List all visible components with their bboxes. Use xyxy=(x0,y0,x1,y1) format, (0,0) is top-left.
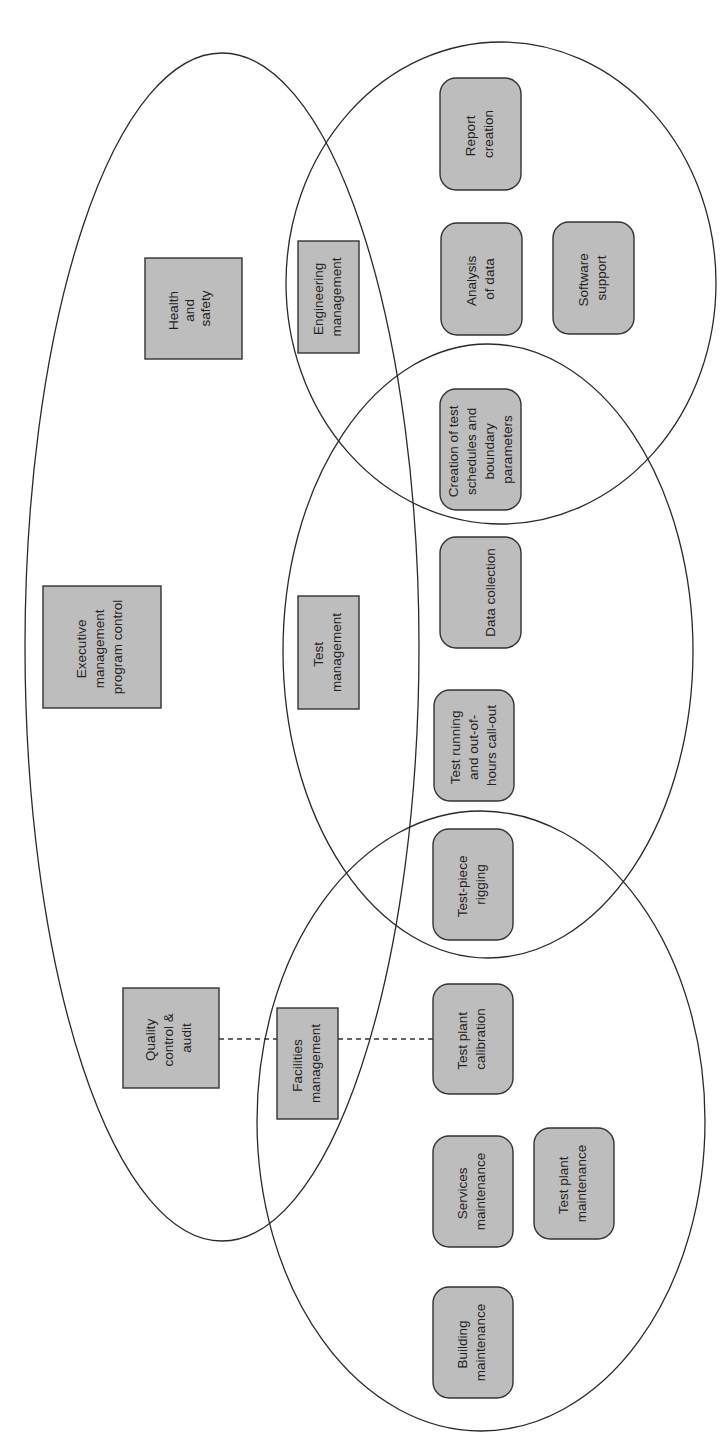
health-safety-box: Health and safety xyxy=(145,258,242,359)
services-maintenance-box: Services maintenance xyxy=(433,1136,513,1247)
report-creation-box: Report creation xyxy=(440,78,521,190)
org-diagram: Health and safety Executive management p… xyxy=(0,0,724,1445)
engineering-management-box: Engineering management xyxy=(298,241,359,353)
test-running-label: Test running and out-of- hours call-out xyxy=(448,705,499,786)
facilities-management-box: Facilities management xyxy=(277,1008,338,1119)
test-running-box: Test running and out-of- hours call-out xyxy=(434,690,514,801)
data-collection-label: Data collection xyxy=(483,548,498,637)
analysis-of-data-box: Analysis of data xyxy=(441,223,522,335)
creation-test-schedules-box: Creation of test schedules and boundary … xyxy=(440,389,521,510)
quality-control-box: Quality control & audit xyxy=(123,988,219,1088)
test-plant-calibration-box: Test plant calibration xyxy=(433,984,513,1094)
test-management-box: Test management xyxy=(298,596,359,709)
executive-management-box: Executive management program control xyxy=(43,586,161,708)
test-piece-rigging-box: Test-piece rigging xyxy=(433,829,513,940)
data-collection-box: Data collection xyxy=(440,537,521,648)
building-maintenance-box: Building maintenance xyxy=(433,1287,513,1398)
test-plant-maintenance-box: Test plant maintenance xyxy=(534,1128,614,1239)
software-support-box: Software support xyxy=(553,222,634,334)
